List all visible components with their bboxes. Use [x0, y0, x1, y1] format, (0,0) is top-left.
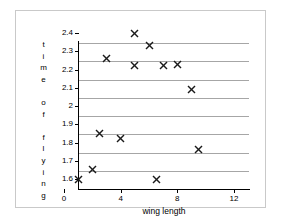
- x-axis-tick-label: 4: [111, 194, 131, 203]
- data-point-marker: [130, 61, 139, 70]
- y-axis-tick: [75, 143, 79, 144]
- data-point-marker: [152, 175, 161, 184]
- y-axis-tick: [75, 51, 79, 52]
- data-point-marker: [194, 145, 203, 154]
- y-axis-tick-labels: 1.61.71.81.922.12.22.32.4: [49, 11, 73, 209]
- x-axis-tick: [121, 189, 122, 193]
- data-point-marker: [116, 134, 125, 143]
- x-axis-tick: [234, 189, 235, 193]
- y-axis-tick-label: 2.1: [51, 84, 73, 92]
- x-axis-tick-label: 12: [224, 194, 244, 203]
- y-axis-tick-label: 2.3: [51, 47, 73, 55]
- y-axis-line: [78, 41, 79, 190]
- y-axis-tick: [75, 106, 79, 107]
- y-axis-title-char: n: [38, 178, 49, 190]
- y-axis-tick: [75, 88, 79, 89]
- gridline: [79, 98, 249, 99]
- y-axis-tick-label: 1.9: [51, 120, 73, 128]
- y-axis-tick: [75, 33, 79, 34]
- data-point-marker: [102, 54, 111, 63]
- x-axis-tick-label: 0: [54, 194, 74, 203]
- x-axis-tick: [177, 189, 178, 193]
- y-axis-title-char: e: [38, 74, 49, 86]
- data-point-marker: [130, 29, 139, 38]
- y-axis-title: time of flying: [38, 39, 49, 201]
- gridline: [79, 80, 249, 81]
- y-axis-tick: [75, 124, 79, 125]
- y-axis-title-char: i: [38, 167, 49, 179]
- y-axis-tick: [75, 161, 79, 162]
- data-point-marker: [95, 129, 104, 138]
- gridline: [79, 134, 249, 135]
- data-point-marker: [173, 60, 182, 69]
- y-axis-tick: [75, 70, 79, 71]
- data-point-marker: [74, 175, 83, 184]
- y-axis-title-char: y: [38, 155, 49, 167]
- y-axis-tick-label: 2.2: [51, 66, 73, 74]
- y-axis-title-char: t: [38, 39, 49, 51]
- y-axis-tick-label: 1.8: [51, 139, 73, 147]
- data-point-marker: [187, 85, 196, 94]
- chart-frame: 1.61.71.81.922.12.22.32.4 time of flying…: [15, 10, 266, 208]
- y-axis-title-char: o: [38, 97, 49, 109]
- gridline: [79, 43, 249, 44]
- gridline: [79, 171, 249, 172]
- y-axis-tick-label: 2.4: [51, 29, 73, 37]
- data-point-marker: [159, 61, 168, 70]
- gridline: [79, 116, 249, 117]
- y-axis-title-char: g: [38, 190, 49, 202]
- y-axis-tick-label: 1.6: [51, 175, 73, 183]
- y-axis-title-char: f: [38, 109, 49, 121]
- gridline: [79, 153, 249, 154]
- y-axis-title-char: [38, 120, 49, 132]
- x-axis-tick: [64, 189, 65, 193]
- x-axis-tick-label: 8: [167, 194, 187, 203]
- data-point-marker: [88, 165, 97, 174]
- y-axis-title-char: f: [38, 132, 49, 144]
- x-axis-title: wing length: [79, 206, 249, 216]
- y-axis-title-char: i: [38, 51, 49, 63]
- y-axis-title-char: l: [38, 143, 49, 155]
- y-axis-tick-label: 1.7: [51, 157, 73, 165]
- y-axis-title-char: [38, 85, 49, 97]
- x-axis-line: [78, 189, 250, 190]
- data-point-marker: [145, 41, 154, 50]
- y-axis-title-char: m: [38, 62, 49, 74]
- y-axis-tick-label: 2: [51, 102, 73, 110]
